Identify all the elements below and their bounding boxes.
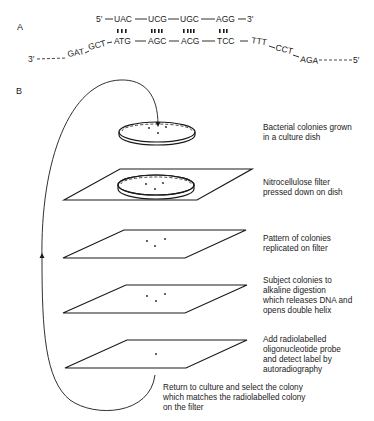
codon-atg: ATG — [114, 36, 131, 46]
step-2-text: Nitrocellulose filter pressed down on di… — [263, 178, 373, 198]
codon-gct: GCT — [87, 38, 107, 52]
probe-filter — [65, 340, 247, 368]
step-1-text: Bacterial colonies grown in a culture di… — [263, 123, 373, 143]
bottom-three-prime: 3′ — [28, 54, 35, 64]
step-3-text: Pattern of colonies replicated on filter — [263, 234, 373, 254]
codon-agc: AGC — [148, 36, 166, 46]
panel-b-label: B — [16, 86, 22, 96]
step-4-text: Subject colonies to alkaline digestion w… — [263, 276, 373, 316]
top-five-prime: 5′ — [96, 14, 103, 24]
codon-ttt: TTT — [251, 35, 268, 47]
filter-on-dish — [64, 169, 252, 200]
codon-tcc: TCC — [217, 36, 234, 46]
codon-ugc: UGC — [180, 14, 199, 24]
codon-agg: AGG — [216, 14, 235, 24]
return-step-text: Return to culture and select the colony … — [163, 383, 373, 413]
top-three-prime: 3′ — [247, 14, 254, 24]
base-pair-bonds — [117, 29, 228, 33]
codon-gat: GAT — [67, 46, 85, 59]
step-5-text: Add radiolabelled oligonucleotide probe … — [263, 335, 373, 375]
rna-strand: 5′ UAC UCG UGC AGG 3′ — [96, 14, 254, 24]
panel-a-label: A — [17, 22, 23, 32]
codon-acg: ACG — [181, 36, 199, 46]
arrowhead-down-icon — [156, 122, 161, 127]
codon-ucg: UCG — [148, 14, 167, 24]
bottom-five-prime: 5′ — [353, 55, 360, 65]
loop-arrow-top — [42, 80, 158, 260]
arrowhead-up-icon — [40, 253, 45, 258]
codon-cct: CCT — [275, 42, 294, 56]
dna-strand: 3′ GAT GCT ATG AGC ACG TCC TTT CCT AGA 5… — [28, 35, 360, 66]
codon-uac: UAC — [114, 14, 132, 24]
replica-filter — [63, 230, 246, 258]
digested-filter — [63, 285, 247, 313]
culture-dish — [119, 122, 195, 145]
loop-arrow-return — [42, 260, 155, 411]
codon-aga: AGA — [300, 54, 319, 66]
